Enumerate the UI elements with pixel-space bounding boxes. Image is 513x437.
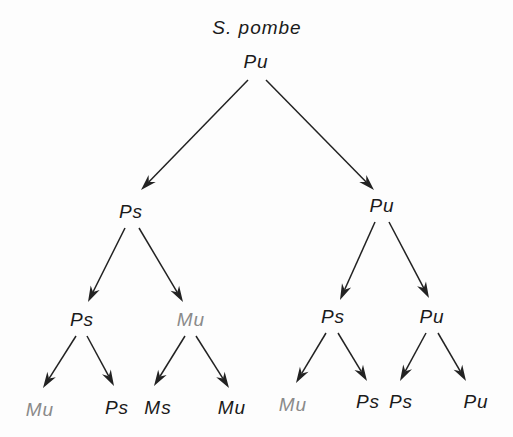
arrow-edge [266,80,374,190]
arrow-edge [296,333,326,383]
arrow-edge [154,336,185,386]
node-label-l3c: Ms [144,397,171,419]
arrow-edge [87,336,114,386]
arrowhead-icon [354,365,367,381]
arrowhead-icon [154,370,167,386]
node-label-l3d: Mu [218,397,246,419]
arrowhead-icon [216,372,229,388]
arrow-edge [340,222,375,300]
arrow-edge [196,336,229,388]
arrowhead-icon [296,367,309,383]
arrowhead-icon [88,285,100,302]
arrowhead-icon [43,372,56,388]
arrow-edge [88,228,125,302]
node-label-l3b: Ps [105,397,129,419]
node-label-l1a: Ps [119,201,143,223]
arrow-edge [338,333,367,381]
node-label-root: Pu [243,51,268,73]
arrowhead-icon [102,370,114,386]
node-label-l3f: Ps [356,391,380,413]
node-label-l3g: Ps [389,391,413,413]
node-label-l2d: Pu [419,306,444,328]
lineage-diagram: S. pombe PuPsPuPsMuPsPuMuPsMsMuMuPsPsPu [0,0,513,437]
arrowhead-icon [400,365,412,381]
node-label-l1b: Pu [369,195,394,217]
diagram-title: S. pombe [212,17,301,39]
node-label-l3a: Mu [26,399,54,421]
arrow-edge [438,333,466,381]
arrow-edge [139,228,183,302]
arrowhead-icon [171,286,183,302]
node-label-l2c: Ps [321,306,345,328]
node-label-l3e: Mu [279,394,307,416]
arrow-edge [43,336,76,388]
arrow-edge [400,333,426,381]
node-label-l2b: Mu [177,309,205,331]
node-label-l2a: Ps [70,309,94,331]
arrow-edge [141,80,248,190]
arrowhead-icon [417,282,429,298]
node-label-l3h: Pu [463,391,488,413]
arrow-edge [389,222,429,298]
arrowhead-icon [454,365,466,381]
